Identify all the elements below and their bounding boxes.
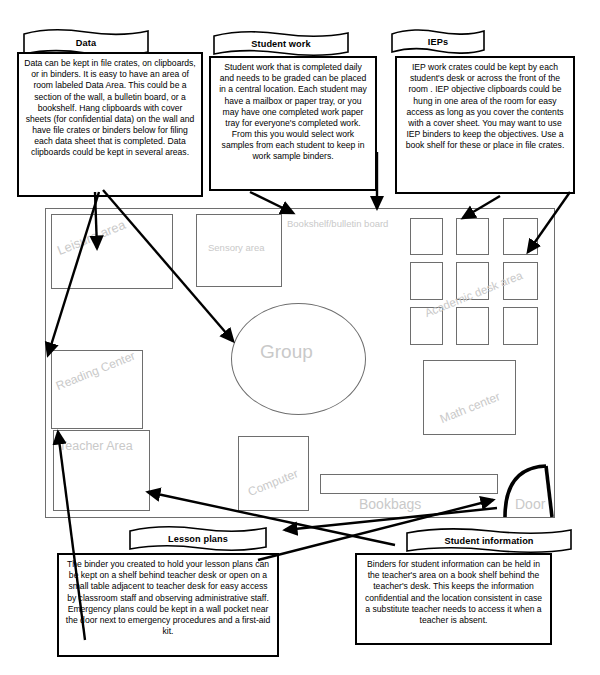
student-desk	[503, 218, 538, 255]
student-desk	[503, 307, 538, 345]
student-desk	[410, 307, 443, 345]
callout-student-work: Student work that is completed daily and…	[209, 56, 377, 191]
callout-student-information: Binders for student information can be h…	[355, 553, 552, 645]
zone-bookbags	[320, 474, 498, 494]
student-desk	[456, 218, 489, 255]
student-desk	[503, 262, 538, 300]
callout-ieps: IEP work crates could be kept by each st…	[395, 56, 575, 194]
callout-text-lesson-plans: The binder you created to hold your less…	[64, 559, 272, 637]
zone-teacher-area	[53, 430, 150, 511]
door-arc-icon	[500, 463, 556, 519]
student-desk	[456, 262, 489, 300]
callout-text-student-information: Binders for student information can be h…	[362, 559, 545, 626]
banner-ieps: IEPs	[390, 28, 486, 56]
classroom-floor-plan: Leisure area Sensory area Bookshelf/bull…	[45, 208, 555, 518]
banner-student-work: Student work	[212, 30, 350, 58]
zone-computer	[238, 436, 309, 511]
diagram-canvas: Leisure area Sensory area Bookshelf/bull…	[0, 0, 600, 675]
zone-sensory-area	[196, 214, 282, 287]
callout-text-ieps: IEP work crates could be kept by each st…	[402, 62, 568, 151]
zone-math-center	[423, 360, 516, 435]
callout-lesson-plans: The binder you created to hold your less…	[57, 553, 279, 657]
zone-reading-center	[51, 350, 143, 429]
banner-lesson-plans: Lesson plans	[128, 525, 268, 553]
student-desk	[410, 218, 443, 255]
zone-group-circle	[231, 303, 366, 415]
zone-leisure-area	[51, 214, 173, 289]
callout-data: Data can be kept in file crates, on clip…	[17, 52, 203, 197]
zone-academic-desk-area	[408, 214, 548, 344]
student-desk	[456, 307, 489, 345]
banner-student-information: Student information	[405, 527, 573, 555]
student-desk	[410, 262, 443, 300]
callout-text-data: Data can be kept in file crates, on clip…	[24, 58, 196, 159]
callout-text-student-work: Student work that is completed daily and…	[216, 62, 370, 163]
